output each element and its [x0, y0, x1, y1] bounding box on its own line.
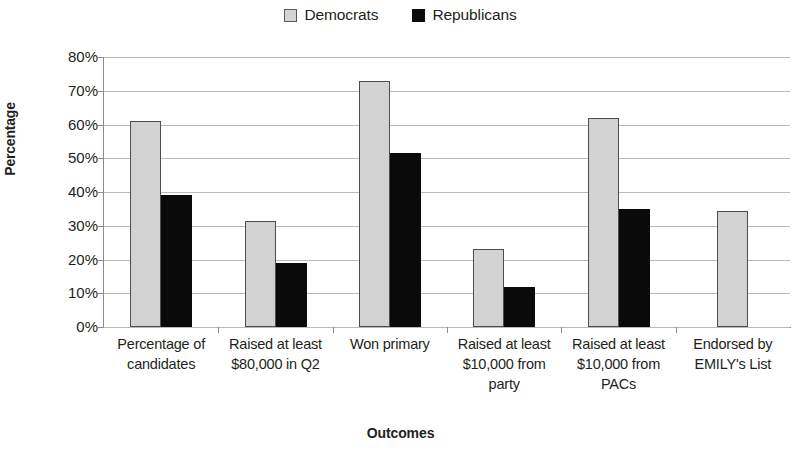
bar-democrats: [473, 249, 504, 327]
x-axis-tick: [561, 327, 562, 333]
category-label-line: PACs: [553, 374, 683, 394]
y-axis-tick-label: 0%: [52, 319, 98, 334]
y-axis-tick-label: 80%: [52, 49, 98, 64]
legend-swatch-republicans-icon: [412, 9, 425, 22]
bar-republicans: [504, 287, 535, 328]
gridline: [104, 192, 790, 193]
y-axis-tick: [98, 158, 104, 159]
x-axis-tick: [333, 327, 334, 333]
x-axis-category-label: Raised at least$10,000 fromparty: [439, 334, 569, 394]
x-axis-title: Outcomes: [0, 425, 801, 441]
bar-republicans: [161, 195, 192, 327]
y-axis-tick-label: 70%: [52, 83, 98, 98]
legend-entry-democrats: Democrats: [284, 6, 378, 24]
bar-chart: Democrats Republicans Percentage 0%10%20…: [0, 0, 801, 454]
category-label-line: Raised at least: [553, 334, 683, 354]
y-axis-tick-label: 30%: [52, 218, 98, 233]
bar-democrats: [588, 118, 619, 327]
legend-label-republicans: Republicans: [432, 6, 516, 24]
bar-republicans: [390, 153, 421, 327]
y-axis-tick-label: 40%: [52, 184, 98, 199]
y-axis-title: Percentage: [2, 79, 18, 199]
category-label-line: Won primary: [325, 334, 455, 354]
gridline: [104, 293, 790, 294]
bar-democrats: [359, 81, 390, 327]
bar-democrats: [245, 221, 276, 327]
category-label-line: Raised at least: [210, 334, 340, 354]
x-axis-category-label: Endorsed byEMILY's List: [668, 334, 798, 374]
gridline: [104, 226, 790, 227]
y-axis-tick: [98, 91, 104, 92]
x-axis-tick: [676, 327, 677, 333]
category-label-line: party: [439, 374, 569, 394]
gridline: [104, 260, 790, 261]
x-axis-tick: [447, 327, 448, 333]
category-label-line: Endorsed by: [668, 334, 798, 354]
chart-legend: Democrats Republicans: [0, 6, 801, 24]
y-axis-tick-labels: 0%10%20%30%40%50%60%70%80%: [44, 57, 98, 327]
x-axis-category-labels: Percentage ofcandidatesRaised at least$8…: [104, 334, 790, 414]
bar-democrats: [130, 121, 161, 327]
category-label-line: candidates: [96, 354, 226, 374]
x-axis-tick: [218, 327, 219, 333]
category-label-line: EMILY's List: [668, 354, 798, 374]
x-axis-category-label: Won primary: [325, 334, 455, 354]
category-label-line: $10,000 from: [439, 354, 569, 374]
gridline: [104, 91, 790, 92]
y-axis-tick: [98, 125, 104, 126]
y-axis-tick-label: 10%: [52, 285, 98, 300]
x-axis-category-label: Percentage ofcandidates: [96, 334, 226, 374]
y-axis-tick: [98, 57, 104, 58]
y-axis-tick-label: 60%: [52, 117, 98, 132]
legend-entry-republicans: Republicans: [412, 6, 516, 24]
category-label-line: Percentage of: [96, 334, 226, 354]
plot-area: [104, 57, 790, 327]
y-axis-tick: [98, 192, 104, 193]
bar-democrats: [717, 211, 748, 327]
category-label-line: Raised at least: [439, 334, 569, 354]
y-axis-tick: [98, 226, 104, 227]
y-axis-tick: [98, 327, 104, 328]
category-label-line: $80,000 in Q2: [210, 354, 340, 374]
legend-label-democrats: Democrats: [304, 6, 378, 24]
x-axis-category-label: Raised at least$80,000 in Q2: [210, 334, 340, 374]
bar-republicans: [619, 209, 650, 327]
x-axis-category-label: Raised at least$10,000 fromPACs: [553, 334, 683, 394]
y-axis-tick-label: 20%: [52, 252, 98, 267]
y-axis-tick: [98, 260, 104, 261]
bar-republicans: [276, 263, 307, 327]
gridline: [104, 158, 790, 159]
y-axis-tick: [98, 293, 104, 294]
gridline: [104, 125, 790, 126]
legend-swatch-democrats-icon: [284, 9, 297, 22]
gridline: [104, 57, 790, 58]
category-label-line: $10,000 from: [553, 354, 683, 374]
y-axis-tick-label: 50%: [52, 150, 98, 165]
